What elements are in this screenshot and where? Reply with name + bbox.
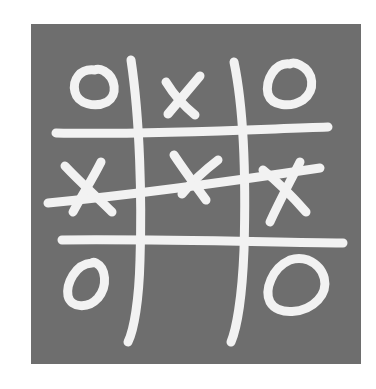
tic-tac-toe-drawing bbox=[0, 0, 376, 389]
cell-r3-c3[interactable] bbox=[268, 259, 325, 312]
cell-r1-c3[interactable] bbox=[267, 63, 311, 105]
cell-r1-c1[interactable] bbox=[74, 69, 114, 104]
cell-r1-c2[interactable] bbox=[166, 76, 200, 115]
grid-horizontal-bottom bbox=[62, 240, 343, 243]
o-mark-icon bbox=[267, 63, 311, 105]
o-mark-icon bbox=[68, 262, 105, 305]
o-mark-icon bbox=[268, 259, 325, 312]
o-mark-icon bbox=[74, 69, 114, 104]
grid-vertical-left bbox=[128, 60, 141, 342]
grid-vertical-right bbox=[231, 62, 245, 342]
grid-horizontal-top bbox=[56, 127, 328, 133]
cell-r2-c2[interactable] bbox=[174, 155, 218, 200]
cell-r3-c1[interactable] bbox=[68, 262, 105, 305]
